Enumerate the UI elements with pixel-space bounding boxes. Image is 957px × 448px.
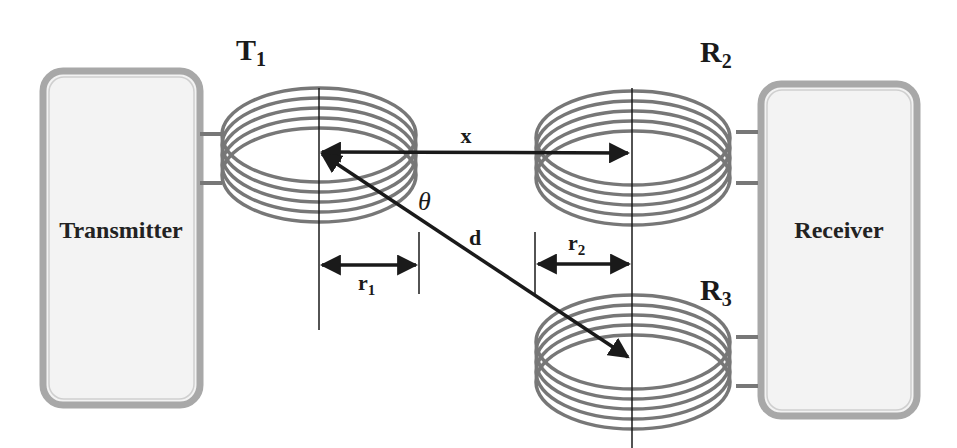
coil-label-t1: T1 xyxy=(236,33,266,70)
distance-x-arrow xyxy=(322,152,628,153)
coil-label-r2: R2 xyxy=(700,35,732,72)
label-theta: θ xyxy=(418,187,431,216)
label-r1: r1 xyxy=(358,270,375,298)
receiver-leads xyxy=(736,132,758,386)
transmitter-block: Transmitter xyxy=(43,71,200,405)
coupling-diagram: Transmitter Receiver xyxy=(0,0,957,448)
label-d: d xyxy=(469,225,481,250)
label-r2: r2 xyxy=(568,230,585,258)
receiver-block: Receiver xyxy=(761,84,917,416)
receiver-label: Receiver xyxy=(794,217,884,243)
transmitter-label: Transmitter xyxy=(59,217,183,243)
coil-label-r3: R3 xyxy=(700,273,732,310)
label-x: x xyxy=(461,123,472,148)
coil-r2 xyxy=(536,91,730,225)
